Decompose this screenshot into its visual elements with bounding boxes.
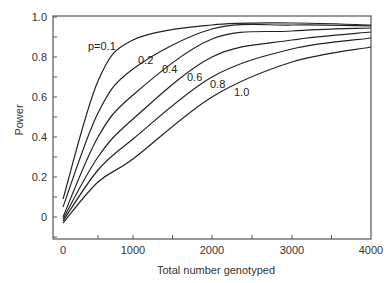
curve-label: 0.4 xyxy=(162,63,177,75)
curve-label: p=0.1 xyxy=(88,40,116,52)
curve-10 xyxy=(63,47,371,223)
x-axis-title: Total number genotyped xyxy=(157,264,275,276)
y-tick-label: 0.8 xyxy=(32,51,47,63)
x-tick-label: 0 xyxy=(60,244,66,256)
power-chart: 00.20.40.60.81.0 01000200030004000 p=0.1… xyxy=(0,0,388,283)
curve-label: 0.6 xyxy=(187,71,202,83)
x-axis: 01000200030004000 xyxy=(60,235,383,256)
curve-04 xyxy=(63,28,371,217)
curve-label: 0.8 xyxy=(210,78,225,90)
curve-label: 1.0 xyxy=(234,86,249,98)
curves xyxy=(63,23,371,223)
y-tick-label: 1.0 xyxy=(32,11,47,23)
y-tick-label: 0.2 xyxy=(32,171,47,183)
x-tick-label: 2000 xyxy=(200,244,224,256)
y-tick-label: 0 xyxy=(41,211,47,223)
curve-label: 0.2 xyxy=(138,54,153,66)
y-axis-title: Power xyxy=(13,104,25,136)
x-tick-label: 4000 xyxy=(359,244,383,256)
y-tick-label: 0.4 xyxy=(32,131,47,143)
x-tick-label: 1000 xyxy=(121,244,145,256)
y-tick-label: 0.6 xyxy=(32,91,47,103)
curve-08 xyxy=(63,38,371,221)
x-tick-label: 3000 xyxy=(280,244,304,256)
